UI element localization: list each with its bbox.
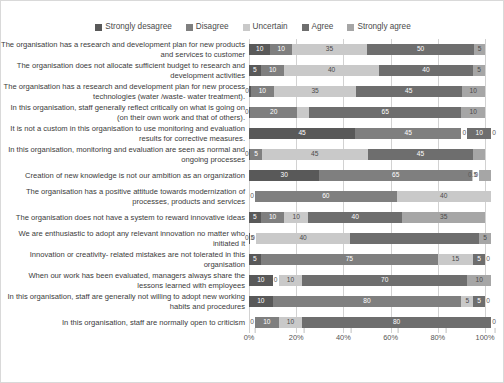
category-label: It is not a custom in this organisation … [1,124,249,143]
chart-legend: Strongly desagreeDisagreeUncertainAgreeS… [1,23,504,31]
bar-segment[interactable]: 5 [473,254,485,265]
bar-segment[interactable]: 10 [255,317,279,328]
bar-segment[interactable]: 65 [319,170,472,181]
bar-segment[interactable]: 0 [485,254,491,265]
category-label: When our work has been evaluated, manage… [1,271,249,290]
bar-segment[interactable]: 5 [479,233,491,244]
bar-segment[interactable]: 0 [491,128,497,139]
bar-segment[interactable]: 5 [250,149,262,160]
bar-segment[interactable]: 10 [467,128,491,139]
bar-segment[interactable]: 15 [438,254,473,265]
bar-segment[interactable]: 10 [279,275,303,286]
bar-segment[interactable]: 10 [249,296,273,307]
bar-segment[interactable] [479,170,491,181]
chart-row: The organisation has a positive attitude… [1,186,504,207]
segment-value: 0 [486,256,490,263]
bar-segment[interactable] [297,107,309,118]
bar-segment[interactable]: 5 [249,65,261,76]
segment-value: 35 [440,214,447,221]
category-label: The organisation does not have a system … [1,213,249,222]
bar-segment[interactable]: 45 [262,149,368,160]
segment-value: 30 [281,172,288,179]
bar-segment[interactable]: 10 [251,86,274,97]
stacked-bar: 45450100 [249,128,485,139]
bar-segment[interactable]: 10 [261,212,285,223]
bar-segment[interactable]: 80 [302,317,491,328]
segment-value: 45 [405,88,412,95]
bar-segment[interactable]: 5 [474,44,485,55]
bar-segment[interactable]: 10 [249,275,273,286]
chart-row: In this organisation, monitoring and eva… [1,144,504,165]
stacked-bar: 100107010 [249,275,485,286]
bar-segment[interactable]: 10 [270,44,291,55]
segment-value: 15 [452,256,459,263]
segment-value: 0 [274,277,278,284]
legend-item[interactable]: Agree [302,23,334,31]
segment-value: 40 [299,235,306,242]
bar-segment[interactable]: 10 [467,275,491,286]
legend-item[interactable]: Strongly desagree [95,23,171,31]
bar-segment[interactable]: 0 [491,317,497,328]
bar-segment[interactable]: 40 [256,233,350,244]
bar-segment[interactable]: 80 [273,296,462,307]
bar-segment[interactable]: 5 [249,254,261,265]
bar-segment[interactable]: 10 [284,212,308,223]
bar-segment[interactable]: 40 [379,65,473,76]
bar-segment[interactable]: 40 [397,191,491,202]
bar-segment[interactable]: 5 [473,65,485,76]
bar-segment[interactable]: 10 [279,317,303,328]
bar-segment[interactable]: 5 [461,296,473,307]
segment-value: 0 [492,319,496,326]
plot-area: The organisation has a research and deve… [1,39,504,359]
segment-value: 35 [326,46,333,53]
bar-segment[interactable] [473,149,485,160]
segment-value: 0 [486,298,490,305]
bar-segment[interactable]: 40 [308,212,402,223]
segment-value: 5 [478,46,482,53]
legend-item[interactable]: Uncertain [243,23,288,31]
bar-segment[interactable]: 5 [249,212,261,223]
segment-value: 10 [287,319,294,326]
chart-row: The organisation does not have a system … [1,207,504,228]
bar-segment[interactable]: 5 [473,296,485,307]
x-axis-tick-label: 80% [430,333,445,342]
segment-value: 0 [463,130,467,137]
bar-segment[interactable]: 70 [302,275,467,286]
chart-row: The organisation does not allocate suffi… [1,60,504,81]
legend-item[interactable]: Strongly agree [347,23,410,31]
segment-value: 10 [256,46,263,53]
bar-segment[interactable]: 20 [250,107,297,118]
bar-segment[interactable]: 10 [462,86,485,97]
x-axis-tick-label: 40% [336,333,351,342]
bar-segment[interactable]: 45 [355,128,461,139]
bar-segment[interactable]: 45 [356,86,461,97]
stacked-bar: 0.554545 [249,149,485,160]
bar-segment[interactable]: 50 [367,44,474,55]
bar-segment[interactable]: 10 [249,44,270,55]
segment-value: 5 [253,214,257,221]
bar-segment[interactable]: 0 [485,296,491,307]
bar-segment[interactable]: 45 [368,149,474,160]
bar-segment[interactable]: 60 [255,191,397,202]
bar-segment[interactable]: 35 [274,86,356,97]
chart-row: When our work has been evaluated, manage… [1,270,504,291]
stacked-bar: 0.5206510 [249,107,485,118]
category-label: The organisation does not allocate suffi… [1,61,249,80]
bar-segment[interactable]: 35 [402,212,485,223]
bar-rows: The organisation has a research and deve… [1,39,504,359]
bar-segment[interactable]: 10 [261,65,285,76]
bar-segment[interactable]: 40 [284,65,378,76]
legend-item[interactable]: Disagree [186,23,229,31]
bar-segment[interactable]: 10 [461,107,484,118]
x-axis: 0%20%40%60%80%100% [249,333,485,355]
bar-segment[interactable]: 30 [249,170,319,181]
bar-segment[interactable]: 35 [292,44,367,55]
legend-label: Agree [312,23,334,31]
chart-row: In this organisation, staff are generall… [1,291,504,312]
segment-value: 10 [269,67,276,74]
segment-value: 40 [440,193,447,200]
bar-segment[interactable]: 45 [249,128,355,139]
bar-segment[interactable]: 65 [309,107,462,118]
bar-segment[interactable]: 75 [261,254,438,265]
bar-segment[interactable] [350,233,479,244]
